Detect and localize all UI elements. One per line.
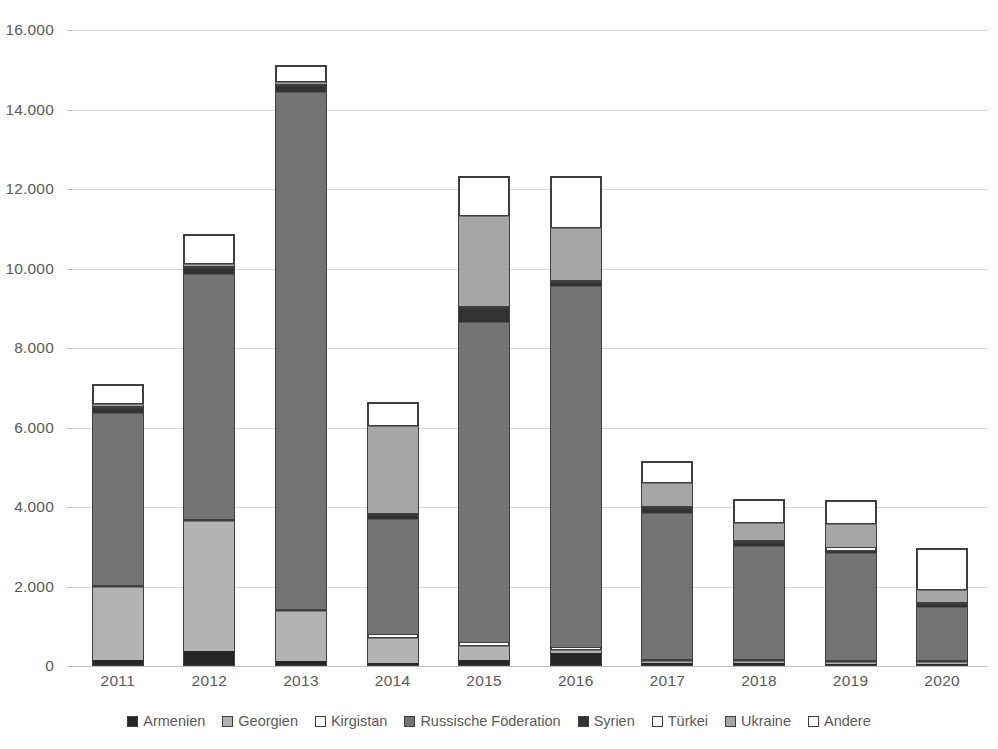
bar-segment-kirgistan[interactable] — [183, 519, 235, 521]
bar-segment-georgien[interactable] — [733, 661, 785, 663]
bar-segment-georgien[interactable] — [458, 646, 510, 660]
bar-segment-syrien[interactable] — [367, 515, 419, 519]
bar-segment-georgien[interactable] — [641, 661, 693, 663]
bar-segment-andere[interactable] — [183, 234, 235, 263]
bar-segment-georgien[interactable] — [916, 662, 968, 664]
bar-segment-kirgistan[interactable] — [275, 609, 327, 611]
bar-segment-russische-f-deration[interactable] — [367, 519, 419, 634]
bar-segment-armenien[interactable] — [550, 653, 602, 667]
bar-segment-kirgistan[interactable] — [825, 660, 877, 662]
bar-segment-russische-f-deration[interactable] — [733, 546, 785, 659]
bar-segment-armenien[interactable] — [92, 660, 144, 666]
bar-segment-andere[interactable] — [916, 548, 968, 590]
bar-segment-t-rkei[interactable] — [916, 602, 968, 604]
bar-segment-armenien[interactable] — [825, 664, 877, 666]
bar-segment-andere[interactable] — [733, 499, 785, 524]
bar-segment-russische-f-deration[interactable] — [825, 553, 877, 660]
bar-segment-t-rkei[interactable] — [92, 406, 144, 408]
bar-segment-syrien[interactable] — [275, 86, 327, 92]
bar-segment-armenien[interactable] — [275, 661, 327, 666]
bar-segment-georgien[interactable] — [825, 662, 877, 664]
bar-segment-t-rkei[interactable] — [550, 280, 602, 282]
legend-item-ukraine[interactable]: Ukraine — [725, 714, 791, 729]
bar-group[interactable] — [458, 176, 510, 666]
bar-segment-armenien[interactable] — [458, 660, 510, 666]
bar-segment-ukraine[interactable] — [367, 426, 419, 513]
bar-segment-t-rkei[interactable] — [183, 266, 235, 268]
bar-group[interactable] — [641, 461, 693, 666]
bar-segment-ukraine[interactable] — [183, 264, 235, 266]
bar-segment-t-rkei[interactable] — [367, 513, 419, 515]
bar-segment-andere[interactable] — [275, 65, 327, 83]
legend-item-syrien[interactable]: Syrien — [578, 714, 635, 729]
bar-group[interactable] — [550, 176, 602, 666]
bar-group[interactable] — [367, 402, 419, 666]
legend-item-t-rkei[interactable]: Türkei — [652, 714, 708, 729]
bar-group[interactable] — [733, 499, 785, 666]
bar-segment-armenien[interactable] — [916, 664, 968, 666]
bar-group[interactable] — [183, 234, 235, 666]
bar-segment-kirgistan[interactable] — [733, 659, 785, 661]
legend-item-armenien[interactable]: Armenien — [127, 714, 205, 729]
bar-segment-andere[interactable] — [550, 176, 602, 228]
bar-segment-armenien[interactable] — [183, 651, 235, 666]
bar-segment-kirgistan[interactable] — [458, 642, 510, 646]
bar-segment-ukraine[interactable] — [458, 216, 510, 307]
bar-segment-syrien[interactable] — [733, 542, 785, 546]
bar-segment-kirgistan[interactable] — [367, 634, 419, 638]
bar-segment-t-rkei[interactable] — [275, 84, 327, 86]
bar-segment-georgien[interactable] — [550, 650, 602, 653]
bar-segment-t-rkei[interactable] — [458, 306, 510, 308]
bar-segment-syrien[interactable] — [916, 604, 968, 607]
bar-segment-armenien[interactable] — [733, 663, 785, 666]
bar-segment-ukraine[interactable] — [733, 523, 785, 540]
bar-segment-andere[interactable] — [367, 402, 419, 426]
bar-segment-t-rkei[interactable] — [733, 540, 785, 542]
bar-segment-andere[interactable] — [825, 500, 877, 525]
bar-segment-ukraine[interactable] — [275, 82, 327, 84]
bar-group[interactable] — [275, 65, 327, 666]
bar-segment-andere[interactable] — [641, 461, 693, 483]
legend-item-russische-f-deration[interactable]: Russische Föderation — [404, 714, 560, 729]
bar-segment-ukraine[interactable] — [916, 590, 968, 602]
bar-segment-kirgistan[interactable] — [92, 585, 144, 587]
bar-segment-ukraine[interactable] — [550, 228, 602, 281]
bar-segment-russische-f-deration[interactable] — [641, 513, 693, 660]
bar-segment-georgien[interactable] — [183, 521, 235, 651]
bar-segment-russische-f-deration[interactable] — [183, 274, 235, 519]
bar-segment-ukraine[interactable] — [92, 404, 144, 406]
bar-segment-andere[interactable] — [458, 176, 510, 216]
bar-segment-ukraine[interactable] — [641, 483, 693, 506]
bar-segment-armenien[interactable] — [641, 663, 693, 666]
bar-segment-russische-f-deration[interactable] — [916, 607, 968, 660]
bar-segment-syrien[interactable] — [825, 551, 877, 553]
bar-segment-t-rkei[interactable] — [641, 506, 693, 508]
bar-group[interactable] — [825, 500, 877, 666]
bar-segment-russische-f-deration[interactable] — [550, 286, 602, 647]
legend-item-andere[interactable]: Andere — [808, 714, 871, 729]
bar-segment-georgien[interactable] — [275, 611, 327, 661]
bar-segment-russische-f-deration[interactable] — [92, 413, 144, 585]
bar-segment-syrien[interactable] — [92, 408, 144, 413]
bar-segment-andere[interactable] — [92, 384, 144, 404]
bar-segment-kirgistan[interactable] — [641, 659, 693, 661]
bar-segment-syrien[interactable] — [641, 508, 693, 512]
bar-segment-syrien[interactable] — [550, 282, 602, 286]
bar-group[interactable] — [92, 384, 144, 666]
legend-item-georgien[interactable]: Georgien — [222, 714, 298, 729]
bar-segment-georgien[interactable] — [92, 587, 144, 660]
bar-segment-ukraine[interactable] — [825, 524, 877, 547]
bar-segment-kirgistan[interactable] — [916, 660, 968, 662]
bar-segment-georgien[interactable] — [367, 638, 419, 663]
bar-group[interactable] — [916, 548, 968, 666]
bar-segment-syrien[interactable] — [458, 308, 510, 322]
bar-segment-russische-f-deration[interactable] — [458, 322, 510, 642]
x-axis-label-2011: 2011 — [72, 672, 164, 690]
bar-segment-russische-f-deration[interactable] — [275, 92, 327, 609]
bar-segment-t-rkei[interactable] — [825, 547, 877, 551]
bar-segment-syrien[interactable] — [183, 268, 235, 274]
bar-segment-armenien[interactable] — [367, 663, 419, 666]
bar-segment-kirgistan[interactable] — [550, 647, 602, 649]
legend-item-kirgistan[interactable]: Kirgistan — [315, 714, 387, 729]
legend-swatch-icon — [652, 716, 663, 727]
